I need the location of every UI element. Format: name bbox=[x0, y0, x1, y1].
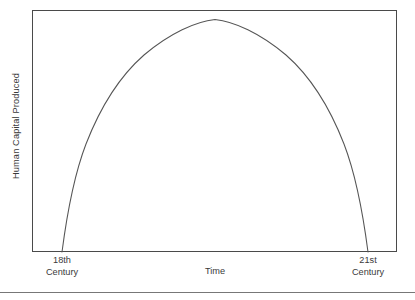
chart-figure: Human Capital Produced 18th Century 21st… bbox=[0, 0, 415, 300]
y-axis-label-text: Human Capital Produced bbox=[11, 73, 21, 179]
x-tick-right-line2: Century bbox=[323, 267, 413, 279]
x-tick-label-right: 21st Century bbox=[323, 255, 413, 278]
x-tick-left-line2: Century bbox=[17, 267, 107, 279]
x-tick-left-line1: 18th bbox=[53, 255, 71, 265]
plot-area-frame bbox=[32, 10, 397, 252]
bottom-divider-rule bbox=[0, 292, 415, 293]
x-tick-right-line1: 21st bbox=[359, 255, 376, 265]
x-axis-label: Time bbox=[165, 266, 265, 276]
y-axis-label: Human Capital Produced bbox=[0, 0, 32, 252]
x-tick-label-left: 18th Century bbox=[17, 255, 107, 278]
